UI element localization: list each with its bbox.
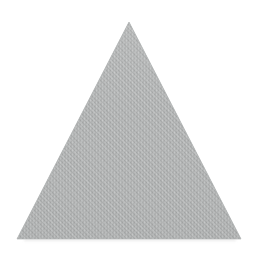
base-shadow xyxy=(24,240,236,242)
figure-canvas xyxy=(0,0,272,258)
triangle-svg xyxy=(0,0,272,258)
